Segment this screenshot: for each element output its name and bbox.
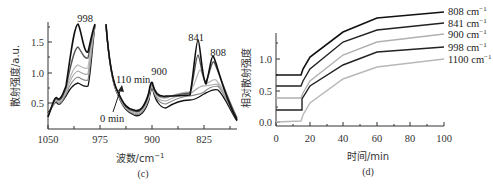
panel-d-x-tick-100: 100 <box>436 133 452 144</box>
panel-d-y-axis-label: 相对散射强度 <box>240 48 252 108</box>
panel-d-x-tick-40: 40 <box>338 133 349 144</box>
panel-c-time-start-label: 0 min <box>100 113 125 124</box>
panel-d-x-tick-60: 60 <box>372 133 383 144</box>
panel-d-x-ticks <box>276 122 444 126</box>
panel-c-x-tick-825: 825 <box>196 134 212 145</box>
legend-label-808: 808 cm−1 <box>448 5 487 17</box>
series-808 <box>276 12 444 75</box>
panel-d-caption: (d) <box>362 166 374 178</box>
panel-d-time-chart: 0.0 0.5 1.0 0 20 40 60 80 100 相对散射强度 时间/… <box>240 5 492 178</box>
panel-c-caption: (c) <box>137 168 148 180</box>
panel-c-spectra <box>48 24 237 121</box>
panel-c-y-tick-1.0: 1.0 <box>31 68 44 79</box>
panel-c-x-tick-975: 975 <box>92 134 108 145</box>
panel-d-legend: 808 cm−1 841 cm−1 900 cm−1 998 cm−1 1100… <box>448 5 492 65</box>
panel-d-y-tick-1.0: 1.0 <box>259 54 272 65</box>
legend-label-900: 900 cm−1 <box>448 28 487 40</box>
panel-d-y-tick-0.0: 0.0 <box>259 117 272 128</box>
panel-d-series <box>276 12 444 122</box>
panel-d-y-tick-0.5: 0.5 <box>259 86 272 97</box>
legend-label-998: 998 cm−1 <box>448 41 487 53</box>
series-841 <box>276 23 444 86</box>
panel-c-peak-label-900: 900 <box>151 66 167 77</box>
panel-c-time-end-label: 110 min <box>116 74 151 85</box>
panel-d-x-tick-80: 80 <box>405 133 416 144</box>
panel-c-time-arrow <box>113 85 124 112</box>
legend-label-1100: 1100 cm−1 <box>448 53 492 65</box>
panel-c-peak-label-998: 998 <box>77 13 93 24</box>
series-900 <box>276 34 444 98</box>
panel-c-x-axis-label: 波数/cm−1 <box>116 152 165 164</box>
panel-d-x-tick-20: 20 <box>305 133 316 144</box>
panel-d-x-tick-0: 0 <box>273 133 278 144</box>
series-998 <box>276 47 444 110</box>
panel-d-x-axis-label: 时间/min <box>347 150 389 162</box>
series-1100 <box>276 59 444 122</box>
panel-c-y-axis-label: 散射强度/a.u. <box>9 45 21 107</box>
panel-c-y-ticks <box>48 27 52 103</box>
panel-c-peak-label-808: 808 <box>210 47 226 58</box>
panel-c-peak-label-841: 841 <box>188 32 204 43</box>
panel-c-x-ticks <box>48 125 230 129</box>
figure: 0.5 1.0 1.5 1050 975 900 825 散射强度/a.u. 波… <box>0 0 493 188</box>
panel-c-x-tick-900: 900 <box>144 134 160 145</box>
arrow-head-icon <box>118 85 124 92</box>
panel-c-y-tick-0.5: 0.5 <box>31 98 44 109</box>
panel-c-spectra-chart: 0.5 1.0 1.5 1050 975 900 825 散射强度/a.u. 波… <box>9 13 237 180</box>
panel-c-y-tick-1.5: 1.5 <box>31 37 44 48</box>
panel-c-x-tick-1050: 1050 <box>38 134 59 145</box>
